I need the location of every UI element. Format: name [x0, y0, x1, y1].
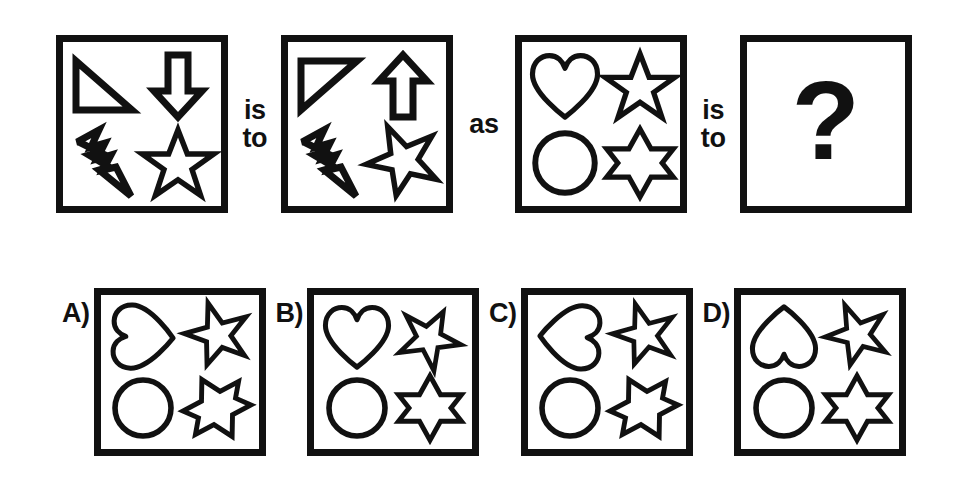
five-point-star-rotated-icon: [610, 305, 678, 369]
block-arrow-up-icon: [375, 51, 431, 121]
cell-bottom-right: [607, 373, 681, 445]
cell-bottom-left: [528, 125, 602, 202]
circle-icon: [531, 129, 599, 197]
option-c-panel[interactable]: [521, 288, 693, 456]
option-b-label: B): [276, 288, 304, 327]
option-c-label: C): [489, 288, 517, 327]
five-point-star-icon: [602, 50, 678, 122]
answer-option-a[interactable]: A): [62, 288, 266, 456]
cell-bottom-right: [602, 125, 678, 202]
six-point-star-rotated-icon: [182, 373, 252, 443]
connector-is-to-first: is to: [228, 96, 281, 153]
heart-icon: [321, 304, 393, 370]
five-point-star-flipped-icon: [823, 305, 891, 369]
cell-bottom-right: [821, 373, 895, 445]
visual-analogy-puzzle: is to: [0, 0, 968, 486]
cell-top-left: [534, 301, 608, 373]
cell-bottom-right: [180, 373, 254, 445]
cell-bottom-left: [534, 373, 608, 445]
question-panel[interactable]: ?: [740, 35, 912, 213]
right-triangle-flipped-icon: [296, 57, 362, 115]
cell-bottom-right: [364, 125, 442, 202]
cell-bottom-right: [394, 373, 468, 445]
cell-top-left: [69, 48, 139, 125]
answer-option-c[interactable]: C): [489, 288, 693, 456]
cell-top-left: [294, 48, 364, 125]
cell-bottom-right: [139, 125, 217, 202]
circle-icon: [752, 376, 816, 440]
cell-top-right: [139, 48, 217, 125]
cell-top-right: [821, 301, 895, 373]
cell-top-right: [180, 301, 254, 373]
circle-icon: [538, 376, 602, 440]
six-point-star-rotated-icon: [609, 373, 679, 443]
five-point-star-rotated-icon: [182, 304, 252, 370]
cell-top-left: [528, 48, 602, 125]
circle-icon: [325, 376, 389, 440]
question-mark: ?: [747, 42, 905, 206]
six-point-star-icon: [395, 373, 465, 443]
cell-bottom-left: [69, 125, 139, 202]
cell-top-left: [747, 301, 821, 373]
cell-bottom-left: [747, 373, 821, 445]
connector-is-to-second: is to: [687, 96, 740, 153]
prompt-panel-c[interactable]: [515, 35, 687, 213]
prompt-panel-a[interactable]: [56, 35, 228, 213]
cell-top-right: [364, 48, 442, 125]
heart-rotated-left-icon: [534, 304, 606, 370]
cell-bottom-left: [320, 373, 394, 445]
block-arrow-down-icon: [150, 51, 206, 121]
connector-as: as: [453, 110, 514, 138]
circle-icon: [111, 376, 175, 440]
cell-bottom-left: [294, 125, 364, 202]
cell-top-left: [320, 301, 394, 373]
right-triangle-icon: [71, 57, 137, 115]
option-d-label: D): [703, 288, 731, 327]
analogy-row: is to: [0, 28, 968, 220]
lightning-bolt-icon: [294, 126, 364, 200]
cell-bottom-left: [107, 373, 181, 445]
five-point-star-tilted-icon: [396, 305, 464, 369]
option-a-label: A): [62, 288, 90, 327]
lightning-bolt-icon: [69, 126, 139, 200]
heart-flipped-icon: [748, 304, 820, 370]
six-point-star-icon: [822, 373, 892, 443]
five-point-star-flipped-icon: [364, 126, 442, 200]
answer-option-d[interactable]: D): [703, 288, 907, 456]
cell-top-right: [607, 301, 681, 373]
cell-top-right: [394, 301, 468, 373]
five-point-star-icon: [139, 126, 217, 200]
heart-icon: [528, 52, 602, 120]
heart-rotated-right-icon: [107, 304, 179, 370]
cell-top-right: [602, 48, 678, 125]
option-d-panel[interactable]: [734, 288, 906, 456]
option-b-panel[interactable]: [307, 288, 479, 456]
answer-option-b[interactable]: B): [276, 288, 480, 456]
six-point-star-icon: [603, 126, 677, 200]
option-a-panel[interactable]: [94, 288, 266, 456]
answer-options-row: A): [0, 288, 968, 466]
prompt-panel-b[interactable]: [281, 35, 453, 213]
cell-top-left: [107, 301, 181, 373]
